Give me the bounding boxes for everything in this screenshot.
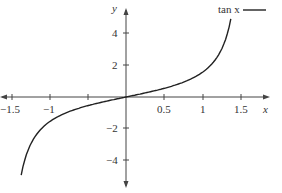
x-tick-label: 0.5	[157, 104, 171, 115]
x-tick-label: −1.5	[0, 104, 20, 115]
x-tick-label: 1	[200, 104, 206, 115]
x-tick-label: 1.5	[234, 104, 248, 115]
y-tick-label: −2	[106, 123, 118, 134]
y-tick-label: 4	[112, 28, 118, 39]
y-axis-top-arrow-icon	[124, 8, 129, 15]
plot-area	[0, 0, 282, 193]
y-axis-label: y	[112, 3, 117, 14]
y-tick-label: −4	[106, 155, 118, 166]
y-tick-label: 2	[112, 60, 118, 71]
y-axis-bottom-arrow-icon	[124, 181, 129, 188]
x-tick-label: −1	[43, 104, 55, 115]
legend-label: tan x	[218, 4, 240, 15]
x-axis-right-arrow-icon	[263, 95, 270, 100]
x-axis-left-arrow-icon	[0, 95, 7, 100]
x-axis-label: x	[263, 104, 268, 115]
